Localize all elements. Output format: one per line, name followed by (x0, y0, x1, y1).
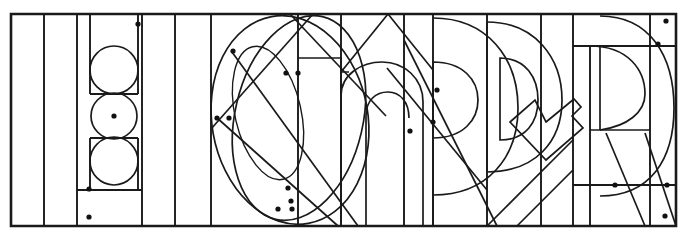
construction-dot (434, 87, 439, 92)
construction-dot (407, 128, 412, 133)
stacked-circle-construction (77, 14, 142, 190)
letter-r-group (573, 16, 676, 226)
construction-dot (214, 115, 219, 120)
circle-top (90, 46, 138, 94)
artboard (0, 0, 688, 241)
diagonal-4 (290, 14, 386, 116)
diagonal-8 (387, 68, 487, 190)
construction-dot (430, 119, 435, 124)
diagonal-5 (341, 14, 388, 72)
construction-dot (86, 186, 91, 191)
diagonal-7 (404, 40, 497, 226)
construction-dot (295, 70, 300, 75)
construction-dots (86, 18, 669, 219)
construction-dot (275, 206, 280, 211)
construction-dot (230, 48, 235, 53)
lettering-drawing (0, 0, 688, 241)
letter-p-first-counter (433, 62, 478, 138)
construction-dot (664, 182, 669, 187)
construction-dot (288, 198, 293, 203)
letter-d-counter (500, 58, 538, 140)
diagonal-construction-lines (211, 14, 573, 226)
circle-bottom (90, 137, 138, 185)
diagonal-10 (517, 170, 573, 226)
construction-dot (289, 206, 294, 211)
letter-r-outer-bowl (600, 16, 674, 196)
letter-n-inner-counter (366, 92, 409, 226)
diagonal-6 (388, 14, 433, 70)
construction-dot (662, 213, 667, 218)
letter-d-group (487, 22, 562, 172)
letter-r-inner-bowl (590, 46, 645, 130)
construction-dot (135, 21, 140, 26)
construction-dot (111, 113, 116, 118)
construction-dot (663, 18, 668, 23)
construction-dot (655, 41, 660, 46)
construction-dot (283, 70, 288, 75)
ellipse-o-tilted (213, 2, 385, 233)
diagonal-3 (232, 52, 358, 226)
letter-p-first-outer-bowl (433, 18, 518, 195)
construction-dot (285, 185, 290, 190)
construction-dot (86, 214, 91, 219)
letter-d-outer-bowl (487, 22, 562, 172)
letter-r-leg-left (606, 133, 645, 226)
construction-dot (612, 182, 617, 187)
construction-dot (226, 115, 231, 120)
letter-n-shoulder (341, 62, 423, 226)
